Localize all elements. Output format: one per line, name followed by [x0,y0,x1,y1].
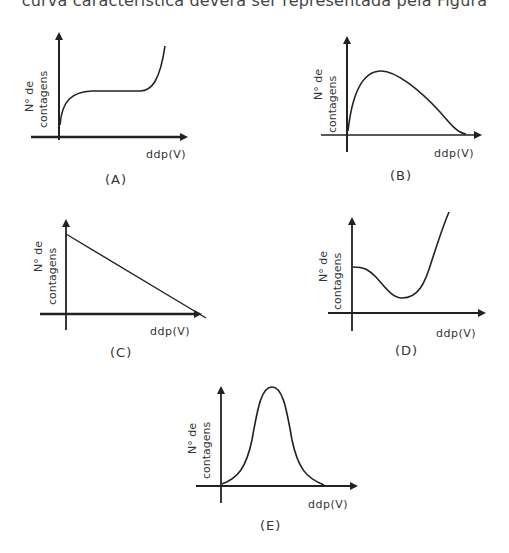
y-axis-label-line2: contagens [331,252,344,310]
y-axis-label-line2: contagens [326,75,339,133]
graph-a: N° de contagens ddp(V) (A) [23,36,186,187]
graph-d: N° de contagens ddp(V) (D) [317,212,482,358]
y-axis-label-line1: N° de [186,423,199,454]
graph-e: N° de contagens ddp(V) (E) [186,387,354,533]
y-axis-label-line2: contagens [37,70,50,128]
curve-b [348,71,466,134]
y-axis-label-line2: contagens [200,421,213,479]
panel-label-a: (A) [105,172,127,187]
panel-label-d: (D) [395,343,418,358]
y-axis-label-line1: N° de [312,69,325,100]
x-axis-label: ddp(V) [150,325,190,338]
y-axis-label-line1: N° de [23,81,36,112]
x-axis-label: ddp(V) [436,327,476,340]
curve-e [222,387,324,485]
curve-d [353,212,449,298]
y-axis-label-line1: N° de [317,251,330,282]
y-axis-label-line2: contagens [46,247,59,305]
curve-c [66,234,206,318]
x-axis-label: ddp(V) [146,148,186,161]
curve-a [60,46,165,125]
panel-label-e: (E) [260,518,281,533]
panel-label-b: (B) [390,168,412,183]
graph-c: N° de contagens ddp(V) (C) [32,223,206,360]
graphs-figure: N° de contagens ddp(V) (A) N° de contage… [0,0,509,553]
panel-label-c: (C) [110,345,132,360]
x-axis-label: ddp(V) [308,498,348,511]
graph-b: N° de contagens ddp(V) (B) [312,40,478,183]
x-axis-label: ddp(V) [434,147,474,160]
y-axis-label-line1: N° de [32,241,45,272]
